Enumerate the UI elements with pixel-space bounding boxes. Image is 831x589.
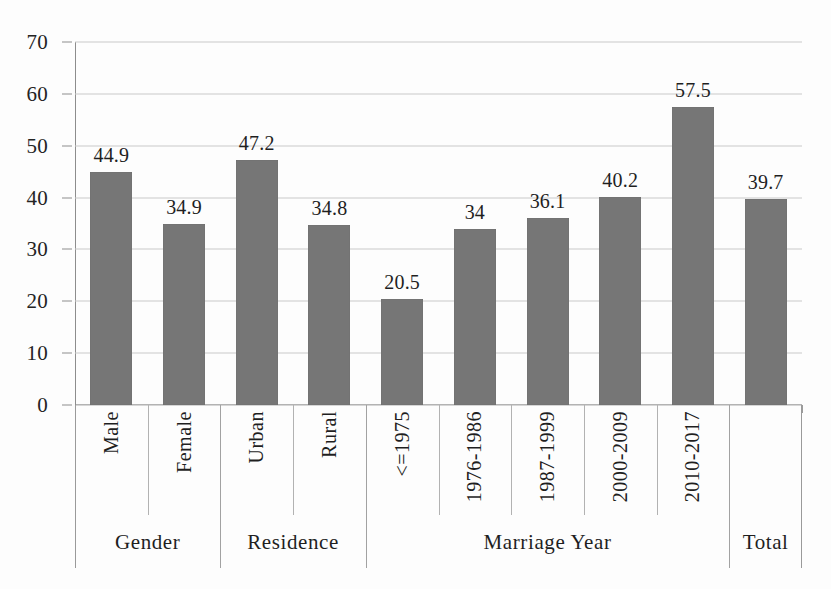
category-label: Male [100,411,123,454]
category-cell: 2000-2009 [584,405,657,515]
group-header-cell: Marriage Year [366,517,730,568]
group-header-label: Residence [247,530,339,555]
bar [90,172,132,405]
bar [672,107,714,405]
category-label: Female [173,411,196,473]
category-separator [293,405,294,515]
category-cell: 2010-2017 [657,405,730,515]
y-tick-label-10: 10 [26,341,48,366]
group-separator [220,405,221,568]
y-tick-label-0: 0 [37,393,48,418]
group-header-cell: Gender [75,517,220,568]
category-cell: Rural [293,405,366,515]
category-label: 2000-2009 [609,411,632,502]
bar-value-label: 34.8 [312,197,348,220]
y-tick-mark-40 [62,197,72,198]
bar-value-label: 47.2 [239,132,275,155]
category-separator [584,405,585,515]
y-tick-mark-20 [62,301,72,302]
category-label: Urban [245,411,268,463]
category-cell: Male [75,405,148,515]
category-label: 1987-1999 [536,411,559,502]
y-tick-label-50: 50 [26,133,48,158]
y-tick-mark-0 [62,405,72,406]
bar-value-label: 20.5 [384,271,420,294]
category-label: 2010-2017 [681,411,704,502]
bar [381,299,423,405]
plot-area: 44.934.947.234.820.53436.140.257.539.7 [75,42,802,405]
y-tick-label-20: 20 [26,289,48,314]
bar-value-label: 39.7 [748,171,784,194]
group-header-cell: Residence [220,517,365,568]
y-tick-mark-50 [62,145,72,146]
category-cell: Female [148,405,221,515]
y-tick-label-60: 60 [26,81,48,106]
bar [599,197,641,405]
category-cell: 1976-1986 [439,405,512,515]
gridline-70 [75,42,802,43]
bar-value-label: 36.1 [530,190,566,213]
y-tick-label-30: 30 [26,237,48,262]
group-header-label: Total [743,530,789,555]
category-separator [657,405,658,515]
group-separator [729,405,730,568]
category-cell: Urban [220,405,293,515]
y-tick-label-40: 40 [26,185,48,210]
bar [745,199,787,405]
category-cell: <=1975 [366,405,439,515]
category-separator [511,405,512,515]
y-tick-mark-10 [62,353,72,354]
bar-value-label: 44.9 [93,144,129,167]
y-tick-mark-30 [62,249,72,250]
category-label: 1976-1986 [463,411,486,502]
category-label: <=1975 [391,411,414,477]
bar-value-label: 40.2 [602,169,638,192]
group-separator [366,405,367,568]
chart-page: 010203040506070 44.934.947.234.820.53436… [0,0,831,589]
bar-value-label: 34 [465,201,485,224]
group-header-label: Gender [115,530,180,555]
bar [163,224,205,405]
y-tick-label-70: 70 [26,30,48,55]
y-axis: 010203040506070 [0,0,62,589]
group-header-cell: Total [729,517,802,568]
bar [236,160,278,405]
category-separator [148,405,149,515]
category-cell [729,405,802,515]
bar [454,229,496,405]
bar [527,218,569,405]
category-cell: 1987-1999 [511,405,584,515]
group-header-label: Marriage Year [484,530,612,555]
category-axis-table: MaleFemaleUrbanRural<=19751976-19861987-… [75,405,802,568]
category-separator [439,405,440,515]
y-tick-mark-70 [62,42,72,43]
category-label: Rural [318,411,341,458]
bar-value-label: 34.9 [166,196,202,219]
bar [308,225,350,405]
bar-value-label: 57.5 [675,79,711,102]
y-tick-mark-60 [62,93,72,94]
